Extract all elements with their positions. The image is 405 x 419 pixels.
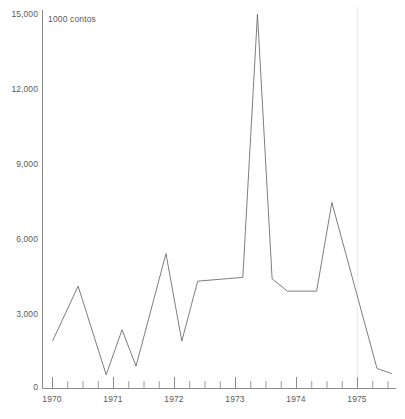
plot-area <box>0 0 405 419</box>
series-line-1000-contos <box>53 14 392 375</box>
x-axis-minor-ticks <box>68 381 388 389</box>
chart-container: 1000 contos 15,000 12,000 9,000 6,000 3,… <box>0 0 405 419</box>
